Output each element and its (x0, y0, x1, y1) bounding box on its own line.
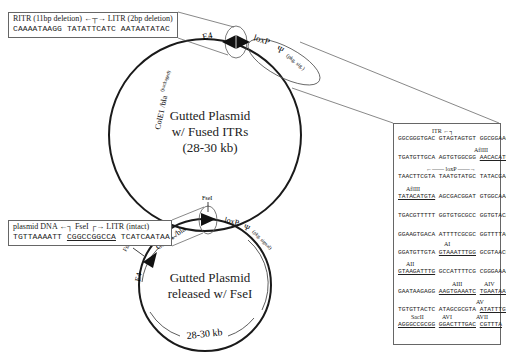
sequence-row: GTAAGATTTG GCCATTTTCG CGGGAAAACT (398, 268, 498, 275)
bottom-loxp-label: loxP (224, 215, 241, 227)
aii-annotation: AII (406, 261, 414, 267)
sacii-annotation: SacII (411, 314, 424, 320)
top-title-line-2: w/ Fused ITRs (150, 124, 270, 140)
bottom-size-label: 28-30 kb (186, 326, 223, 341)
bottom-itr-arrow-icon (201, 213, 216, 226)
sequence-row: TAACTTCGTA TAATGTATGC TATACGAAGT (398, 173, 498, 180)
bottom-e4-arrow-icon (143, 252, 157, 268)
sequence-row: TGTGTTACTC ATAGCGCGTA ATATTTGTCT (398, 306, 498, 313)
right-arrow-icon: ┌→ (91, 222, 107, 231)
bottom-junction-box: plasmid DNA ←┐ FseI ┌→ LITR (intact) TGT… (8, 220, 172, 246)
top-title-line-3: (28-30 kb) (150, 140, 270, 156)
bottom-fsei-top-label: FseI (202, 195, 212, 201)
plasmid-dna-label: plasmid DNA (13, 222, 57, 231)
top-psi-label: Ψ (275, 44, 286, 56)
fsei-site-segment: CGGCCGGCCA (67, 232, 116, 241)
top-e4-label: E4 (201, 30, 213, 42)
sequence-row: GGAAGTGACA ATTTTCGCGC GGTTTTAGGC (398, 231, 498, 238)
top-plasmid-title: Gutted Plasmid w/ Fused ITRs (28-30 kb) (150, 108, 270, 156)
bottom-title-line-1: Gutted Plasmid (155, 270, 265, 286)
av-annotation: AV (476, 299, 484, 305)
seq-segment: TATATTCATC (67, 24, 116, 33)
sequence-row: TGATGTTGCA AGTGTGGCGG AACACATGTA (398, 154, 498, 161)
sequence-row: GGATGTTGTA GTAAATTTGG GCGTAACCGA (398, 249, 498, 256)
bottom-title-line-2: released w/ FseI (155, 286, 265, 302)
avi-annotation: AVI (442, 314, 452, 320)
bottom-junction-header: plasmid DNA ←┐ FseI ┌→ LITR (intact) (13, 222, 167, 232)
sequence-row: AGGGCCGCGG GGACTTTGAC CGTTTA (398, 321, 498, 328)
bottom-junction-sequence: TGTTAAAATT CGGCCGGCCA TCATCAATAA (13, 232, 167, 242)
litr-label: LITR (2bp deletion) (108, 14, 173, 23)
top-title-line-1: Gutted Plasmid (150, 108, 270, 124)
sequence-row: GGCGGGTGAC GTAGTAGTGT GGCGGAAGTG (398, 135, 498, 142)
ritr-label: RITR (11bp deletion) (13, 14, 82, 23)
sequence-row: TATACATGTA AGCGACGGAT GTGGCAAAAG (398, 193, 498, 200)
top-junction-sequence: CAAAATAAGG TATATTCATC AATAATATAC (13, 24, 173, 34)
afliii-annotation-2: AflIII (406, 186, 420, 192)
seq-segment: CAAAATAAGG (13, 24, 62, 33)
aiv-annotation: AIV (484, 281, 495, 287)
seq-segment: TGTTAAAATT (13, 232, 62, 241)
seq-segment: AATAATATAC (121, 24, 170, 33)
litr-intact-label: LITR (intact) (106, 222, 149, 231)
fsei-label: FseI (75, 222, 89, 231)
bottom-e4-label: E4 (133, 272, 144, 283)
avii-annotation: AVII (476, 314, 488, 320)
top-pkg-sig-label: (pkg. sig.) (285, 52, 307, 72)
sequence-panel: ITR ←┐ AflIII ←—— loxP ——→ AflIII AI AII… (393, 123, 501, 345)
seq-segment: TCATCAATAA (121, 232, 170, 241)
left-arrow-icon: ←┐ (59, 222, 75, 231)
bottom-plasmid-title: Gutted Plasmid released w/ FseI (155, 270, 265, 302)
itr-annotation: ITR ←┐ (432, 128, 453, 134)
sequence-row: TGACGTTTTT GGTGTGCGCC GGTGTACACA (398, 212, 498, 219)
afliii-annotation-1: AflIII (474, 147, 488, 153)
top-packaged-label: (packaged) (159, 69, 171, 92)
aiii-annotation: AIII (452, 281, 462, 287)
loxp-annotation: ←—— loxP ——→ (426, 166, 476, 172)
top-junction-header: RITR (11bp deletion) ←┬→ LITR (2bp delet… (13, 14, 173, 24)
top-loxp-label: loxP (252, 32, 271, 47)
junction-arrow-icon: ←┬→ (84, 14, 108, 23)
sequence-row: GAATAAGAGG AAGTGAAATC TGAATAATTT (398, 288, 498, 295)
ai-annotation: AI (444, 241, 450, 247)
top-junction-box: RITR (11bp deletion) ←┬→ LITR (2bp delet… (8, 12, 178, 38)
